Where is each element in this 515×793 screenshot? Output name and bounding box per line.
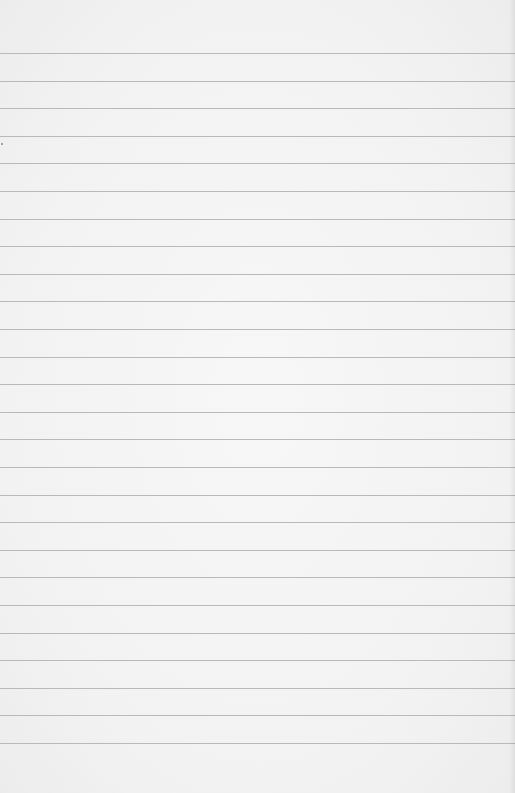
paper-edge-shadow — [509, 0, 515, 793]
ruled-line — [0, 715, 515, 716]
ruled-line — [0, 550, 515, 551]
ruled-line — [0, 274, 515, 275]
ruled-line — [0, 577, 515, 578]
ruled-line — [0, 439, 515, 440]
ruled-line — [0, 191, 515, 192]
ruled-line — [0, 743, 515, 744]
ruled-line — [0, 301, 515, 302]
ruled-line — [0, 467, 515, 468]
ruled-line — [0, 246, 515, 247]
lined-paper-sheet — [0, 0, 515, 793]
ruled-line — [0, 329, 515, 330]
ruled-line — [0, 219, 515, 220]
ruled-line — [0, 660, 515, 661]
ruled-line — [0, 163, 515, 164]
ruled-line — [0, 108, 515, 109]
ruled-line — [0, 633, 515, 634]
ruled-line — [0, 81, 515, 82]
ruled-line — [0, 605, 515, 606]
ruled-line — [0, 688, 515, 689]
ruled-line — [0, 522, 515, 523]
ruled-line — [0, 357, 515, 358]
ruled-line — [0, 136, 515, 137]
ruled-line — [0, 412, 515, 413]
paper-speck — [1, 143, 3, 145]
ruled-line — [0, 384, 515, 385]
ruled-line — [0, 53, 515, 54]
ruled-line — [0, 495, 515, 496]
